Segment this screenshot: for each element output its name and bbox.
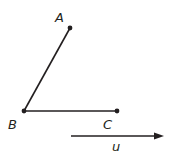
label-C: C <box>103 117 113 132</box>
label-u: u <box>112 139 120 154</box>
geometry-diagram: A B C u <box>0 0 170 156</box>
label-B: B <box>8 117 17 132</box>
point-C <box>115 109 120 114</box>
segment-BA <box>24 28 70 111</box>
point-A <box>68 26 73 31</box>
point-B <box>22 109 27 114</box>
label-A: A <box>54 10 64 25</box>
arrowhead-icon <box>154 133 164 140</box>
